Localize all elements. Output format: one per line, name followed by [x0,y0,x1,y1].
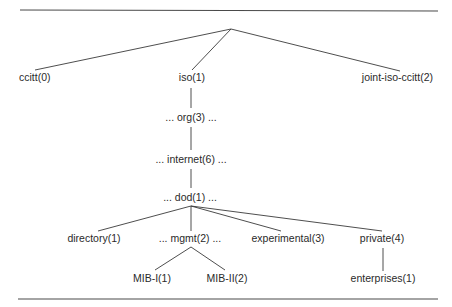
edge-mgmt-mib2 [191,247,225,270]
node-directory: directory(1) [67,232,120,244]
edge-root-joint [231,29,400,71]
root-edges [35,29,400,71]
node-internet: ... internet(6) ... [155,153,226,165]
edge-root-ccitt [35,29,231,70]
node-mib-ii: MIB-II(2) [207,272,248,284]
edge-dod-private [191,206,382,231]
oid-tree-diagram: ccitt(0) iso(1) joint-iso-ccitt(2) ... o… [0,0,452,307]
node-org: ... org(3) ... [165,111,216,123]
node-joint-iso-ccitt: joint-iso-ccitt(2) [361,71,433,83]
node-ccitt: ccitt(0) [19,71,51,83]
edge-root-iso [192,29,231,70]
edge-mgmt-mib1 [155,247,191,270]
node-iso: iso(1) [179,71,205,83]
node-private: private(4) [360,232,404,244]
node-mgmt: ... mgmt(2) ... [159,232,221,244]
top-rule [20,10,438,11]
dod-edges [98,206,382,231]
edge-dod-experimental [191,206,281,231]
node-mib-i: MIB-I(1) [133,272,171,284]
node-dod: ... dod(1) ... [163,191,217,203]
node-experimental: experimental(3) [252,232,325,244]
node-enterprises: enterprises(1) [351,272,416,284]
edge-dod-directory [98,206,191,231]
